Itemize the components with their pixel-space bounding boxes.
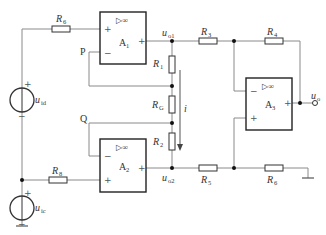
svg-text:+: + [138,163,146,173]
svg-text:u: u [162,27,167,38]
svg-text:6: 6 [274,179,278,186]
svg-text:R: R [200,174,207,185]
svg-text:R: R [266,26,273,37]
svg-text:−: − [104,151,112,161]
svg-text:P: P [80,46,86,57]
svg-text:+: + [284,98,292,108]
resistor-r6 [265,165,283,171]
svg-text:+: + [24,188,32,198]
svg-text:o2: o2 [168,177,175,184]
svg-text:ic: ic [41,207,46,214]
svg-text:1: 1 [160,63,163,70]
svg-text:+: + [104,175,112,185]
svg-text:+: + [24,79,32,89]
svg-text:1: 1 [126,42,129,49]
amplifier-infinity-icon: ▷∞ [116,16,128,25]
svg-text:R: R [151,99,158,110]
svg-text:id: id [41,99,47,106]
svg-text:−: − [18,111,26,121]
svg-text:2: 2 [126,166,129,173]
svg-text:G: G [159,104,164,111]
amplifier-infinity-icon: ▷∞ [262,82,274,91]
svg-text:o: o [317,95,320,102]
svg-text:R: R [51,165,58,176]
current-label: i [184,103,187,114]
svg-text:R: R [152,58,159,69]
svg-text:R: R [266,174,273,185]
svg-text:3: 3 [272,104,275,111]
svg-text:6: 6 [63,18,67,25]
svg-text:+: + [250,113,258,123]
svg-text:u: u [35,94,40,105]
svg-text:−: − [104,48,112,58]
svg-text:u: u [35,202,40,213]
resistor-rg [169,96,175,113]
svg-text:Q: Q [80,113,88,124]
svg-text:o1: o1 [168,32,175,39]
amplifier-infinity-icon: ▷∞ [116,143,128,152]
svg-text:5: 5 [208,179,211,186]
svg-text:8: 8 [59,170,62,177]
svg-text:R: R [200,26,207,37]
svg-text:u: u [162,172,167,183]
svg-text:+: + [138,36,146,46]
svg-text:R: R [55,13,62,24]
resistor-r3 [199,38,217,44]
svg-text:4: 4 [274,31,278,38]
svg-text:+: + [104,24,112,34]
resistor-r8 [49,177,67,183]
circuit-diagram: ▷∞ A 1 + − + ▷∞ A 2 − + + ▷∞ A 3 − + + R… [0,0,326,235]
resistor-r7 [52,26,70,32]
svg-text:R: R [152,136,159,147]
svg-text:3: 3 [208,31,211,38]
resistor-r4 [265,38,283,44]
resistor-r5 [199,165,217,171]
svg-text:u: u [311,90,316,101]
svg-text:−: − [18,219,26,229]
svg-text:−: − [250,86,258,96]
svg-text:2: 2 [160,141,163,148]
resistor-r2 [169,133,175,150]
resistor-r1 [169,56,175,73]
resistor-labels: R6 R3 R4 R1 RG R2 R5 R6 R8 [51,13,278,186]
